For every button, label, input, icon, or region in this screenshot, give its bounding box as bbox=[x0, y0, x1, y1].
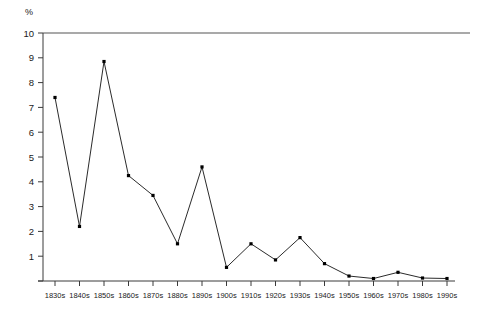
x-axis-ticks bbox=[55, 281, 447, 286]
data-point-marker bbox=[127, 174, 130, 177]
x-axis-tick-label: 1890s bbox=[192, 291, 213, 300]
y-axis-ticks: 10987654321 bbox=[23, 28, 43, 282]
x-axis-tick-label: 1900s bbox=[216, 291, 237, 300]
x-axis-tick-label: 1860s bbox=[118, 291, 139, 300]
y-axis-tick-label: 5 bbox=[29, 152, 34, 163]
data-point-marker bbox=[445, 277, 448, 280]
x-axis-tick-label: 1930s bbox=[290, 291, 311, 300]
data-point-markers bbox=[53, 60, 448, 280]
y-axis-tick-label: 6 bbox=[29, 127, 34, 138]
y-axis-tick-label: 9 bbox=[29, 52, 34, 63]
x-axis-tick-label: 1850s bbox=[94, 291, 115, 300]
data-point-marker bbox=[102, 60, 105, 63]
data-point-marker bbox=[200, 165, 203, 168]
x-axis-tick-label: 1880s bbox=[167, 291, 188, 300]
x-axis-tick-label: 1980s bbox=[412, 291, 433, 300]
data-point-marker bbox=[151, 194, 154, 197]
data-point-marker bbox=[78, 225, 81, 228]
y-axis-tick-label: 1 bbox=[29, 251, 34, 262]
x-axis-tick-label: 1990s bbox=[437, 291, 458, 300]
data-point-marker bbox=[396, 271, 399, 274]
data-point-marker bbox=[274, 258, 277, 261]
data-point-marker bbox=[53, 96, 56, 99]
x-axis-tick-label: 1840s bbox=[69, 291, 90, 300]
x-axis-tick-label: 1920s bbox=[265, 291, 286, 300]
data-point-marker bbox=[323, 262, 326, 265]
data-point-marker bbox=[225, 266, 228, 269]
chart-page: % 10987654321 1830s1840s1850s1860s1870s1… bbox=[0, 0, 478, 313]
y-axis-tick-label: 8 bbox=[29, 77, 34, 88]
x-axis-tick-label: 1950s bbox=[339, 291, 360, 300]
x-axis-tick-labels: 1830s1840s1850s1860s1870s1880s1890s1900s… bbox=[45, 291, 458, 300]
x-axis-tick-label: 1830s bbox=[45, 291, 66, 300]
data-point-marker bbox=[176, 242, 179, 245]
data-series-line bbox=[55, 62, 447, 279]
y-axis-tick-label: 7 bbox=[29, 102, 34, 113]
y-axis-tick-label: 2 bbox=[29, 226, 34, 237]
data-point-marker bbox=[372, 277, 375, 280]
y-axis-tick-label: 4 bbox=[29, 176, 34, 187]
x-axis-tick-label: 1940s bbox=[314, 291, 335, 300]
data-point-marker bbox=[421, 276, 424, 279]
x-axis-tick-label: 1960s bbox=[363, 291, 384, 300]
data-point-marker bbox=[249, 242, 252, 245]
x-axis-tick-label: 1970s bbox=[388, 291, 409, 300]
x-axis-tick-label: 1910s bbox=[241, 291, 262, 300]
y-axis-tick-label: 10 bbox=[23, 28, 34, 39]
data-point-marker bbox=[347, 274, 350, 277]
x-axis-tick-label: 1870s bbox=[143, 291, 164, 300]
line-chart: 10987654321 1830s1840s1850s1860s1870s188… bbox=[0, 0, 478, 313]
y-axis-tick-label: 3 bbox=[29, 201, 34, 212]
data-point-marker bbox=[298, 236, 301, 239]
